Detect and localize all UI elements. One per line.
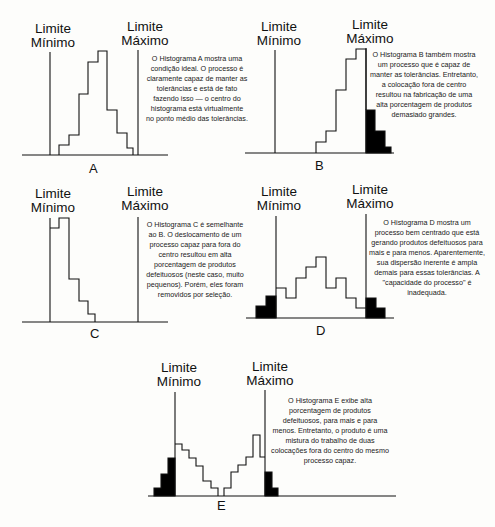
bars-c [50, 218, 95, 322]
histogram-c [22, 217, 168, 322]
bars-a [59, 51, 133, 155]
histogram-drawings [0, 0, 495, 527]
defective-bars-d-low [256, 296, 276, 318]
histogram-b [245, 48, 394, 153]
histogram-d [246, 214, 394, 318]
bars-e-right [224, 435, 265, 496]
bars-e-left [175, 444, 218, 496]
defective-bars-e-low [154, 458, 175, 496]
histogram-a [22, 50, 168, 155]
bars-d [276, 257, 366, 308]
defective-bars-d-high [366, 298, 385, 318]
histogram-e [148, 390, 396, 496]
bars-b [316, 49, 366, 153]
defective-bars-b [366, 110, 391, 153]
defective-bars-e-high [265, 472, 278, 496]
